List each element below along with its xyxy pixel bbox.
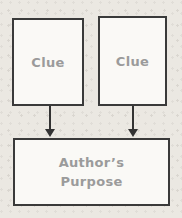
authors-purpose-box: Author’s Purpose: [13, 138, 170, 206]
authors-purpose-label-line1: Author’s: [59, 153, 125, 172]
arrow-right-head-icon: [128, 129, 138, 137]
clue-box-left-label: Clue: [31, 53, 64, 72]
arrow-left-stem: [49, 106, 51, 130]
clue-box-right-label: Clue: [116, 52, 149, 71]
arrow-right-stem: [132, 106, 134, 130]
arrow-left-head-icon: [45, 129, 55, 137]
clue-box-right: Clue: [98, 16, 167, 106]
authors-purpose-label-line2: Purpose: [59, 172, 125, 191]
graphic-organizer-diagram: Clue Clue Author’s Purpose: [0, 0, 182, 218]
clue-box-left: Clue: [12, 18, 84, 106]
authors-purpose-label: Author’s Purpose: [59, 153, 125, 191]
